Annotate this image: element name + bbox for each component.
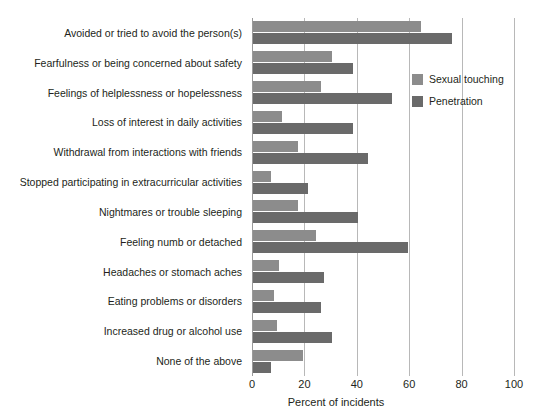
gridline-60 xyxy=(409,18,410,376)
category-label: Withdrawal from interactions with friend… xyxy=(0,146,242,158)
x-tick-label-100: 100 xyxy=(505,378,523,390)
bar xyxy=(253,141,298,152)
category-label: Feeling numb or detached xyxy=(0,236,242,248)
bar xyxy=(253,63,353,74)
legend-item: Sexual touching xyxy=(412,70,532,88)
bar xyxy=(253,111,282,122)
bar xyxy=(253,33,452,44)
bar xyxy=(253,183,308,194)
bar xyxy=(253,290,274,301)
legend-label: Sexual touching xyxy=(429,73,504,85)
bar xyxy=(253,320,277,331)
bar xyxy=(253,123,353,134)
category-label: Loss of interest in daily activities xyxy=(0,116,242,128)
bar-chart: Avoided or tried to avoid the person(s)F… xyxy=(0,0,538,416)
category-label: Eating problems or disorders xyxy=(0,295,242,307)
x-tick-label-0: 0 xyxy=(249,378,255,390)
x-axis-title: Percent of incidents xyxy=(0,396,538,408)
bar xyxy=(253,302,321,313)
x-axis-tick-labels: 020406080100 xyxy=(252,376,514,396)
x-axis-title-text: Percent of incidents xyxy=(154,396,385,408)
x-tick-label-80: 80 xyxy=(455,378,467,390)
bar xyxy=(253,242,408,253)
category-label: None of the above xyxy=(0,355,242,367)
legend-swatch-icon xyxy=(412,74,423,85)
bar xyxy=(253,93,392,104)
bar xyxy=(253,200,298,211)
category-label: Nightmares or trouble sleeping xyxy=(0,206,242,218)
x-tick-label-40: 40 xyxy=(351,378,363,390)
chart-legend: Sexual touchingPenetration xyxy=(412,70,532,114)
gridline-40 xyxy=(357,18,358,376)
category-label: Headaches or stomach aches xyxy=(0,266,242,278)
category-axis-labels: Avoided or tried to avoid the person(s)F… xyxy=(0,18,248,376)
bar xyxy=(253,332,332,343)
bar xyxy=(253,21,421,32)
x-tick-label-20: 20 xyxy=(298,378,310,390)
x-tick-label-60: 60 xyxy=(403,378,415,390)
bar xyxy=(253,153,368,164)
bar xyxy=(253,260,279,271)
legend-swatch-icon xyxy=(412,96,423,107)
legend-item: Penetration xyxy=(412,92,532,110)
bar xyxy=(253,230,316,241)
bar xyxy=(253,171,271,182)
bar xyxy=(253,212,358,223)
bar xyxy=(253,81,321,92)
category-label: Stopped participating in extracurricular… xyxy=(0,176,242,188)
category-label: Fearfulness or being concerned about saf… xyxy=(0,57,242,69)
bar xyxy=(253,272,324,283)
category-label: Feelings of helplessness or hopelessness xyxy=(0,87,242,99)
category-label: Increased drug or alcohol use xyxy=(0,325,242,337)
legend-label: Penetration xyxy=(429,95,483,107)
bar xyxy=(253,350,303,361)
category-label: Avoided or tried to avoid the person(s) xyxy=(0,27,242,39)
bar xyxy=(253,362,271,373)
bar xyxy=(253,51,332,62)
